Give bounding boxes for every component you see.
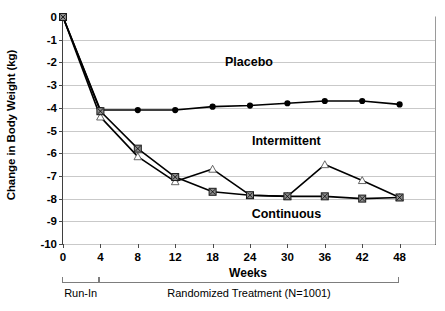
x-tick-mark	[400, 244, 401, 248]
x-tick-mark	[362, 244, 363, 248]
plot-area: 0-1-2-3-4-5-6-7-8-9-10 04812182430364248	[62, 16, 436, 245]
y-tick-label: -2	[47, 56, 57, 68]
y-tick-label: -4	[47, 102, 57, 114]
markers-continuous	[60, 14, 404, 203]
y-axis-title-text: Change in Body Weight (kg)	[5, 50, 17, 201]
y-tick-label: -1	[47, 34, 57, 46]
x-tick-label: 24	[244, 251, 257, 263]
series-line	[63, 17, 400, 199]
y-tick-label: 0	[51, 11, 57, 23]
data-point	[247, 102, 253, 108]
x-tick-label: 8	[135, 251, 141, 263]
x-tick-label: 12	[169, 251, 182, 263]
data-point	[209, 165, 217, 172]
x-tick-label: 18	[206, 251, 219, 263]
x-tick-label: 0	[60, 251, 66, 263]
chart-page: Change in Body Weight (kg) 0-1-2-3-4-5-6…	[0, 0, 445, 311]
x-tick-mark	[138, 244, 139, 248]
y-tick-label: -8	[47, 193, 57, 205]
series-continuous	[63, 17, 400, 199]
y-axis-title: Change in Body Weight (kg)	[0, 0, 22, 250]
x-tick-mark	[325, 244, 326, 248]
data-point	[284, 100, 290, 106]
x-tick-label: 48	[393, 251, 406, 263]
y-tick-label: -7	[47, 170, 57, 182]
data-point	[210, 104, 216, 110]
data-point	[172, 107, 178, 113]
data-point	[359, 98, 365, 104]
x-tick-mark	[175, 244, 176, 248]
data-point	[322, 98, 328, 104]
y-tick-label: -9	[47, 215, 57, 227]
x-tick-mark	[213, 244, 214, 248]
gridline	[63, 244, 435, 245]
phase-bracket	[99, 277, 398, 283]
series-label-continuous: Continuous	[252, 207, 321, 221]
x-tick-label: 4	[97, 251, 103, 263]
series-plot	[63, 17, 435, 244]
data-point	[135, 107, 141, 113]
x-tick-label: 30	[281, 251, 294, 263]
data-point	[397, 101, 403, 107]
series-intermittent	[63, 17, 400, 197]
x-tick-label: 42	[356, 251, 369, 263]
y-tick-label: -10	[40, 238, 57, 250]
y-tick-label: -5	[47, 125, 57, 137]
x-tick-mark	[250, 244, 251, 248]
series-label-intermittent: Intermittent	[252, 134, 321, 148]
x-tick-mark	[287, 244, 288, 248]
data-point	[321, 161, 329, 168]
phase-bracket-label: Run-In	[64, 287, 97, 299]
phase-bracket-label: Randomized Treatment (N=1001)	[167, 287, 331, 299]
y-tick-label: -6	[47, 147, 57, 159]
x-tick-mark	[100, 244, 101, 248]
x-tick-label: 36	[318, 251, 331, 263]
series-line	[63, 17, 400, 197]
series-label-placebo: Placebo	[225, 55, 273, 69]
x-tick-mark	[63, 244, 64, 248]
phase-bracket	[62, 277, 99, 283]
y-tick-label: -3	[47, 79, 57, 91]
